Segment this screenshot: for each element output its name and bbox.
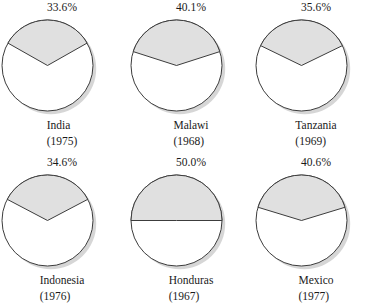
pie-country-name: Tanzania xyxy=(295,117,336,133)
pie-year: (1975) xyxy=(47,133,78,149)
pie-caption: Tanzania(1969) xyxy=(253,117,379,149)
pie-percentage-label: 33.6% xyxy=(0,0,125,15)
pie-country-name: Honduras xyxy=(169,272,214,288)
pie-graphic xyxy=(0,173,125,271)
pie-caption: Indonesia(1976) xyxy=(0,272,125,304)
pie-percentage-label: 34.6% xyxy=(0,155,125,170)
pie-percentage-label: 35.6% xyxy=(253,0,379,15)
pie-chart-indonesia: 34.6%Indonesia(1976) xyxy=(0,155,125,307)
pie-year: (1968) xyxy=(173,133,208,149)
pie-caption: India(1975) xyxy=(0,117,125,149)
pie-caption: Honduras(1967) xyxy=(128,272,254,304)
pie-year: (1969) xyxy=(295,133,336,149)
pie-graphic xyxy=(253,18,379,116)
pie-year: (1976) xyxy=(40,288,85,304)
pie-year: (1977) xyxy=(298,288,333,304)
pie-chart-mexico: 40.6%Mexico(1977) xyxy=(253,155,379,307)
pie-country-name: Mexico xyxy=(298,272,333,288)
pie-chart-malawi: 40.1%Malawi(1968) xyxy=(128,0,254,153)
pie-percentage-label: 50.0% xyxy=(128,155,254,170)
pie-country-name: Indonesia xyxy=(40,272,85,288)
pie-chart-grid: 33.6%India(1975)40.1%Malawi(1968)35.6%Ta… xyxy=(0,0,379,307)
pie-chart-tanzania: 35.6%Tanzania(1969) xyxy=(253,0,379,153)
pie-caption: Mexico(1977) xyxy=(253,272,379,304)
pie-percentage-label: 40.1% xyxy=(128,0,254,15)
pie-shaded-slice xyxy=(131,175,222,221)
pie-chart-honduras: 50.0%Honduras(1967) xyxy=(128,155,254,307)
pie-caption: Malawi(1968) xyxy=(128,117,254,149)
pie-year: (1967) xyxy=(169,288,214,304)
pie-country-name: India xyxy=(47,117,78,133)
pie-graphic xyxy=(0,18,125,116)
pie-graphic xyxy=(128,18,254,116)
pie-percentage-label: 40.6% xyxy=(253,155,379,170)
pie-graphic xyxy=(128,173,254,271)
pie-graphic xyxy=(253,173,379,271)
pie-chart-india: 33.6%India(1975) xyxy=(0,0,125,153)
pie-country-name: Malawi xyxy=(173,117,208,133)
